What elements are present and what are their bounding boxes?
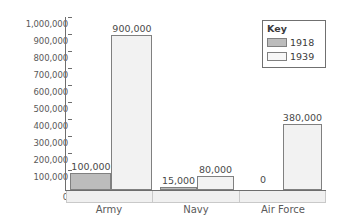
y-tick: 200,000 — [0, 148, 72, 158]
y-tick-mark — [68, 17, 72, 18]
bar-value-navy-1939: 80,000 — [187, 164, 244, 175]
bar-army-1939 — [111, 35, 152, 190]
y-tick-label: 400,000 — [34, 121, 72, 131]
legend-item-1939: 1939 — [267, 50, 321, 63]
legend-label-1939: 1939 — [290, 51, 314, 62]
x-category-label-air-force: Air Force — [240, 203, 326, 216]
legend-item-1918: 1918 — [267, 36, 321, 49]
legend-title: Key — [267, 23, 321, 35]
y-tick-mark — [68, 102, 72, 103]
y-tick: 400,000 — [0, 114, 72, 124]
bar-navy-1939 — [197, 176, 234, 190]
y-tick-mark — [68, 119, 72, 120]
legend: Key 1918 1939 — [262, 20, 326, 68]
y-tick-label: 300,000 — [34, 138, 72, 148]
bar-navy-1918 — [160, 187, 197, 190]
y-tick: 700,000 — [0, 63, 72, 73]
y-tick-label: 100,000 — [34, 172, 72, 182]
legend-label-1918: 1918 — [290, 37, 314, 48]
y-tick-label: 800,000 — [34, 53, 72, 63]
bar-chart: 1,000,000 900,000 800,000 700,000 600,00… — [0, 0, 337, 222]
bar-airforce-1939 — [283, 124, 322, 190]
y-tick: 1,000,000 — [0, 12, 72, 22]
y-tick: 500,000 — [0, 97, 72, 107]
bar-army-1918 — [70, 173, 111, 190]
x-category-label-navy: Navy — [153, 203, 239, 216]
y-tick-mark — [68, 153, 72, 154]
legend-swatch-1939 — [267, 52, 287, 61]
y-tick-label: 700,000 — [34, 70, 72, 80]
bar-value-army-1939: 900,000 — [101, 23, 163, 34]
y-tick-label: 600,000 — [34, 87, 72, 97]
y-tick: 300,000 — [0, 131, 72, 141]
y-tick-mark — [68, 34, 72, 35]
y-tick: 0 — [0, 185, 72, 195]
bar-value-airforce-1939: 380,000 — [271, 112, 334, 123]
y-tick-label: 500,000 — [34, 104, 72, 114]
y-tick-mark — [68, 51, 72, 52]
bar-value-airforce-1918: 0 — [243, 174, 283, 185]
x-axis-separator — [152, 191, 153, 203]
x-category-label-army: Army — [66, 203, 152, 216]
x-axis-separator — [239, 191, 240, 203]
y-tick-label: 900,000 — [34, 36, 72, 46]
y-tick-mark — [68, 136, 72, 137]
y-tick: 600,000 — [0, 80, 72, 90]
x-axis-band — [66, 191, 326, 203]
y-tick: 800,000 — [0, 46, 72, 56]
legend-swatch-1918 — [267, 38, 287, 47]
y-tick: 900,000 — [0, 29, 72, 39]
y-tick-mark — [68, 85, 72, 86]
y-tick-mark — [68, 68, 72, 69]
